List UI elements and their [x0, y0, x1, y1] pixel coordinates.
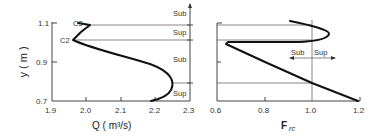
xtick-2.2: 2.2 — [149, 106, 161, 115]
ytick-0.7: 0.7 — [36, 97, 48, 106]
xtick-2.0: 2.0 — [80, 106, 92, 115]
right-x-label-sub: rc — [289, 124, 295, 133]
right-x-label: F — [281, 120, 287, 131]
regime-sub-2: Sub — [173, 55, 186, 64]
left-panel: 1.1 0.9 0.7 1.9 2.0 2.1 2.2 2.3 Q ( m³/s… — [17, 3, 195, 131]
c2-label: C2 — [60, 36, 70, 45]
regime-sup-2: Sup — [173, 89, 186, 98]
regime-sup-1: Sup — [173, 28, 186, 37]
xtick-1.0: 1.0 — [305, 106, 317, 115]
ytick-1.1: 1.1 — [38, 19, 50, 28]
c3-label: C3 — [73, 19, 83, 28]
ytick-0.9: 0.9 — [36, 58, 48, 67]
xtick-2.3: 2.3 — [183, 106, 195, 115]
q-curve — [73, 23, 173, 101]
xtick-2.1: 2.1 — [115, 106, 127, 115]
froude-curve — [226, 21, 358, 101]
xtick-0.6: 0.6 — [210, 106, 222, 115]
regime-sub-1: Sub — [173, 9, 186, 18]
sub-arrow-label: Sub — [291, 48, 304, 57]
left-x-label: Q ( m³/s) — [92, 120, 131, 131]
right-panel: Sub Sup 0.6 0.8 1.0 1.2 F rc — [210, 20, 365, 133]
sup-arrow-label: Sup — [314, 48, 327, 57]
left-y-label: y ( m ) — [17, 46, 29, 77]
xtick-1.2: 1.2 — [353, 106, 365, 115]
xtick-1.9: 1.9 — [45, 106, 57, 115]
figure: 1.1 0.9 0.7 1.9 2.0 2.1 2.2 2.3 Q ( m³/s… — [0, 0, 385, 137]
xtick-0.8: 0.8 — [258, 106, 270, 115]
